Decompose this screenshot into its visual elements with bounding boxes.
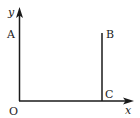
x-axis-label: x	[125, 104, 132, 117]
point-c-label: C	[105, 88, 113, 101]
y-axis-label: y	[7, 6, 15, 19]
point-a-label: A	[6, 28, 16, 41]
coordinate-diagram: y A B C O x	[0, 0, 140, 118]
point-b-label: B	[106, 28, 114, 41]
origin-label: O	[9, 105, 18, 118]
